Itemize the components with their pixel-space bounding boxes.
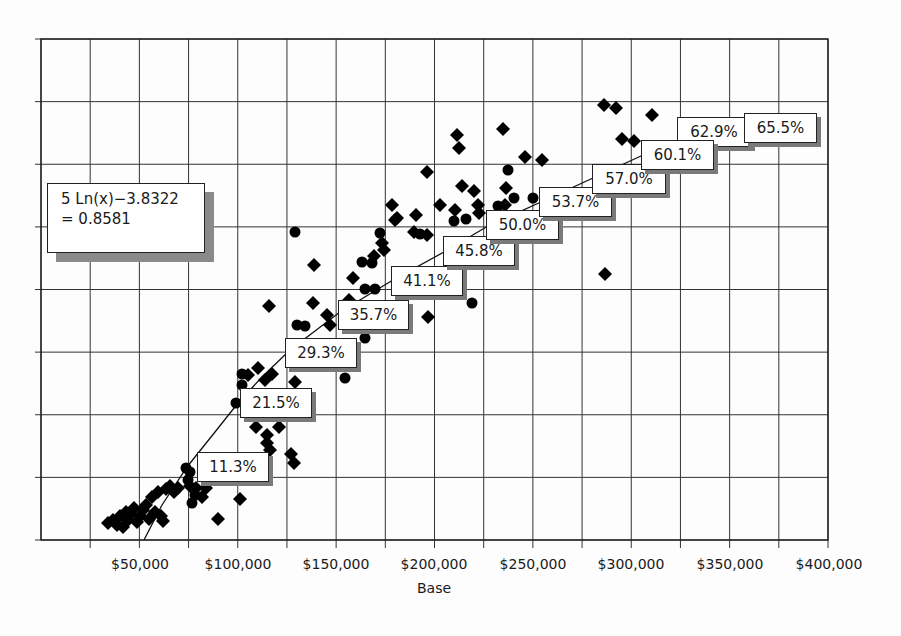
x-axis-title: Base (417, 580, 451, 596)
scatter-chart: $50,000 $100,000 $150,000 $200,000 $250,… (0, 0, 901, 636)
x-tick-label: $250,000 (500, 556, 567, 572)
data-label: 45.8% (443, 236, 515, 266)
x-tick-label: $200,000 (401, 556, 468, 572)
circle-marker (503, 165, 514, 176)
diamond-marker (609, 101, 623, 115)
circle-marker (367, 258, 378, 269)
data-label: 60.1% (641, 140, 714, 170)
diamond-marker (518, 150, 532, 164)
trendline-equation: 5 Ln(x)−3.8322 (61, 189, 204, 209)
x-tick-label: $150,000 (303, 556, 370, 572)
diamond-marker (645, 108, 659, 122)
circle-marker (528, 193, 539, 204)
diamond-marker (288, 375, 302, 389)
diamond-marker (467, 184, 481, 198)
diamond-marker (448, 203, 462, 217)
diamond-marker (535, 153, 549, 167)
diamond-marker (627, 134, 641, 148)
circle-marker (357, 257, 368, 268)
circle-marker (290, 227, 301, 238)
circle-marker (370, 284, 381, 295)
trendline-equation-box: 5 Ln(x)−3.8322 = 0.8581 (47, 183, 205, 253)
diamond-marker (496, 122, 510, 136)
circle-marker (449, 216, 460, 227)
diamond-marker (306, 296, 320, 310)
data-label: 35.7% (338, 300, 409, 330)
diamond-marker (421, 310, 435, 324)
data-label: 29.3% (285, 338, 357, 368)
diamond-marker (409, 208, 423, 222)
circle-marker (415, 229, 426, 240)
diamond-marker (499, 181, 513, 195)
circle-marker (237, 369, 248, 380)
diamond-marker (597, 98, 611, 112)
diamond-marker (420, 165, 434, 179)
diamond-marker (615, 132, 629, 146)
x-tick-label: $400,000 (796, 556, 863, 572)
circle-marker (375, 228, 386, 239)
data-label: 65.5% (744, 113, 817, 143)
diamond-marker (262, 299, 276, 313)
diamond-marker (272, 420, 286, 434)
x-tick-label: $300,000 (598, 556, 665, 572)
diamond-marker (385, 198, 399, 212)
data-label: 41.1% (391, 266, 463, 296)
data-label: 21.5% (240, 388, 312, 418)
diamond-marker (598, 267, 612, 281)
circle-marker (461, 214, 472, 225)
diamond-marker (450, 128, 464, 142)
x-tick-label: $350,000 (697, 556, 764, 572)
circle-marker (467, 298, 478, 309)
circle-marker (300, 321, 311, 332)
circle-marker (187, 498, 198, 509)
diamond-marker (251, 361, 265, 375)
circle-marker (360, 284, 371, 295)
diamond-marker (307, 258, 321, 272)
diamond-marker (249, 420, 263, 434)
diamond-marker (233, 492, 247, 506)
x-tick-label: $50,000 (111, 556, 169, 572)
data-label: 11.3% (197, 452, 269, 482)
circle-marker (340, 373, 351, 384)
circle-marker (183, 475, 194, 486)
circle-marker (509, 193, 520, 204)
diamond-marker (433, 198, 447, 212)
diamond-marker (452, 141, 466, 155)
diamond-marker (211, 512, 225, 526)
diamond-marker (346, 271, 360, 285)
x-axis-tick-labels: $50,000 $100,000 $150,000 $200,000 $250,… (111, 556, 862, 572)
trendline-r-squared: = 0.8581 (61, 209, 204, 229)
diamond-marker (455, 179, 469, 193)
x-tick-label: $100,000 (205, 556, 272, 572)
circle-marker (360, 333, 371, 344)
